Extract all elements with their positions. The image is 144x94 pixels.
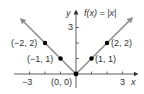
point-label-0-0: (0, 0) xyxy=(51,77,72,87)
point-1-1 xyxy=(89,56,93,60)
y-tick-label-3: 3 xyxy=(68,22,73,32)
point-label-2-2: (2, 2) xyxy=(111,38,132,48)
point-m2-2 xyxy=(43,41,47,45)
point-label-m1-1: (−1, 1) xyxy=(27,54,53,64)
point-label-1-1: (1, 1) xyxy=(95,54,116,64)
point-2-2 xyxy=(105,41,109,45)
point-label-m2-2: (−2, 2) xyxy=(11,38,37,48)
y-axis-label: y xyxy=(66,8,71,18)
function-label: f(x) = |x| xyxy=(84,8,116,18)
x-tick-label-neg3: −3 xyxy=(22,77,32,87)
point-0-0 xyxy=(74,72,79,77)
x-axis-label: x xyxy=(131,77,136,87)
point-m1-1 xyxy=(58,56,62,60)
x-tick-label-3: 3 xyxy=(120,77,125,87)
y-ticks xyxy=(76,28,79,59)
